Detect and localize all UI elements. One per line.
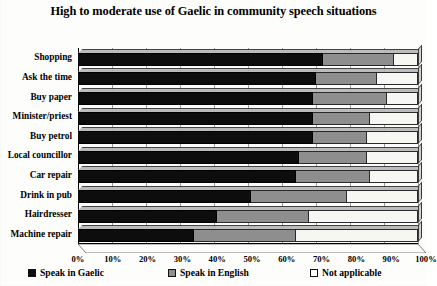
bar-segment[interactable]: [78, 131, 313, 144]
bar-row[interactable]: [78, 131, 418, 144]
x-axis-tick-label: 0%: [72, 254, 85, 264]
legend-item[interactable]: Speak in English: [168, 267, 249, 278]
bar-series-group: [78, 48, 418, 244]
x-axis-tick-label: 50%: [243, 254, 260, 264]
bar-right-cap: [418, 84, 422, 105]
bar-row[interactable]: [78, 170, 418, 183]
bar-segment[interactable]: [313, 131, 367, 144]
bar-segment[interactable]: [309, 210, 418, 223]
y-axis-label: Drink in pub: [20, 190, 72, 200]
bar-top-bevel: [78, 49, 422, 53]
x-axis-tick-label: 90%: [383, 254, 400, 264]
bar-segment[interactable]: [78, 112, 313, 125]
bar-top-bevel: [78, 147, 422, 151]
bar-segment[interactable]: [370, 170, 418, 183]
x-axis-tick-label: 100%: [415, 254, 436, 264]
bar-top-bevel: [78, 108, 422, 112]
bar-segment[interactable]: [78, 92, 313, 105]
bar-segment[interactable]: [251, 190, 346, 203]
x-axis-tick-label: 10%: [104, 254, 121, 264]
bar-segment[interactable]: [78, 151, 299, 164]
legend-label: Not applicable: [322, 267, 381, 278]
bar-top-bevel: [78, 225, 422, 229]
bar-segment[interactable]: [217, 210, 309, 223]
y-axis-label: Shopping: [34, 52, 72, 62]
bar-row[interactable]: [78, 190, 418, 203]
bar-segment[interactable]: [78, 53, 323, 66]
legend-item[interactable]: Not applicable: [310, 267, 381, 278]
y-axis-label: Local councillor: [8, 150, 72, 160]
bar-segment[interactable]: [313, 92, 388, 105]
bar-segment[interactable]: [367, 131, 418, 144]
bar-segment[interactable]: [347, 190, 418, 203]
x-axis-tick-label: 60%: [278, 254, 295, 264]
bar-row[interactable]: [78, 151, 418, 164]
bar-segment[interactable]: [78, 170, 296, 183]
x-axis-tick-label: 20%: [139, 254, 156, 264]
y-axis-label: Minister/priest: [13, 111, 72, 121]
y-axis-label: Car repair: [30, 170, 72, 180]
chart-floor-3d: [78, 244, 426, 253]
bar-right-cap: [418, 221, 422, 242]
legend-item[interactable]: Speak in Gaelic: [28, 267, 104, 278]
bar-segment[interactable]: [387, 92, 418, 105]
y-axis-label: Buy petrol: [30, 131, 72, 141]
bar-top-bevel: [78, 88, 422, 92]
bar-segment[interactable]: [194, 229, 296, 242]
bar-row[interactable]: [78, 72, 418, 85]
y-axis-label: Hairdresser: [25, 209, 72, 219]
chart-title: High to moderate use of Gaelic in commun…: [0, 4, 427, 19]
x-axis-tick-label: 70%: [313, 254, 330, 264]
bar-row[interactable]: [78, 112, 418, 125]
bar-segment[interactable]: [370, 112, 418, 125]
bar-row[interactable]: [78, 229, 418, 242]
bar-row[interactable]: [78, 210, 418, 223]
x-axis-tick-label: 80%: [348, 254, 365, 264]
bar-top-bevel: [78, 206, 422, 210]
bar-segment[interactable]: [367, 151, 418, 164]
bar-segment[interactable]: [299, 151, 367, 164]
bar-segment[interactable]: [78, 210, 217, 223]
bar-segment[interactable]: [296, 229, 418, 242]
plot-area: [78, 48, 418, 244]
x-axis-tick-label: 30%: [174, 254, 191, 264]
black-square-swatch: [28, 269, 36, 277]
bar-right-cap: [418, 182, 422, 203]
bar-top-bevel: [78, 166, 422, 170]
bar-top-bevel: [78, 186, 422, 190]
x-axis-tick-label: 40%: [209, 254, 226, 264]
bar-row[interactable]: [78, 53, 418, 66]
y-axis-label: Buy paper: [30, 92, 72, 102]
legend-label: Speak in Gaelic: [40, 267, 104, 278]
bar-top-bevel: [78, 127, 422, 131]
bar-segment[interactable]: [377, 72, 418, 85]
bar-segment[interactable]: [78, 229, 194, 242]
bar-segment[interactable]: [313, 112, 371, 125]
bar-segment[interactable]: [78, 190, 251, 203]
y-axis-label: Machine repair: [10, 229, 72, 239]
bar-segment[interactable]: [316, 72, 377, 85]
bar-row[interactable]: [78, 92, 418, 105]
bar-right-cap: [418, 123, 422, 144]
bar-top-bevel: [78, 68, 422, 72]
white-square-swatch: [310, 269, 318, 277]
floor-svg: [78, 244, 426, 253]
y-axis-label: Ask the time: [22, 72, 72, 82]
gray-square-swatch: [168, 269, 176, 277]
bar-segment[interactable]: [296, 170, 371, 183]
legend-label: Speak in English: [180, 267, 249, 278]
bar-segment[interactable]: [323, 53, 394, 66]
y-axis-category-labels: ShoppingAsk the timeBuy paperMinister/pr…: [0, 48, 74, 244]
bar-segment[interactable]: [78, 72, 316, 85]
x-axis-tick-labels: 0%10%20%30%40%50%60%70%80%90%100%: [0, 254, 427, 266]
chart-legend: Speak in GaelicSpeak in EnglishNot appli…: [0, 267, 427, 283]
bar-segment[interactable]: [394, 53, 418, 66]
